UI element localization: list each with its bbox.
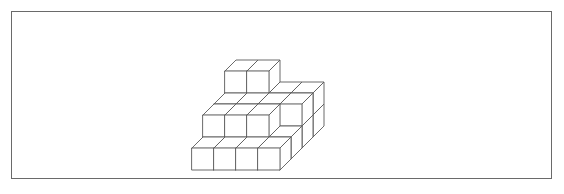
figure-page — [0, 0, 564, 194]
cube-face-front — [258, 148, 280, 170]
isometric-cube-stack-drawing — [0, 0, 564, 194]
cube-face-front — [192, 148, 214, 170]
cube-face-front — [225, 71, 247, 93]
cube-group — [192, 60, 324, 170]
cube-face-front — [225, 115, 247, 137]
cube-face-front — [247, 115, 269, 137]
cube-face-front — [236, 148, 258, 170]
cube-face-front — [247, 71, 269, 93]
cube-face-front — [280, 104, 302, 126]
cube-face-front — [214, 148, 236, 170]
cube-face-front — [203, 115, 225, 137]
